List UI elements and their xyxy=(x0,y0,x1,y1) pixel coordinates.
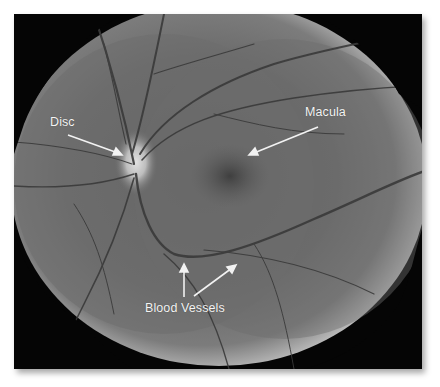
macula-label: Macula xyxy=(305,106,346,119)
blood-vessels-label: Blood Vessels xyxy=(145,302,225,315)
fundus-image xyxy=(14,14,422,369)
fundus-image-frame: Disc Macula Blood Vessels xyxy=(14,14,422,369)
disc-label: Disc xyxy=(50,116,75,129)
